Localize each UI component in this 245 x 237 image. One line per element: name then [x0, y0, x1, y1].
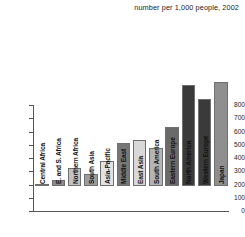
bar-category-label: Central Africa	[40, 143, 47, 184]
bar-group: Central AfricaE. and S. AfricaNorthern A…	[34, 0, 229, 212]
bar-category-label: Asia-Pacific	[105, 148, 112, 184]
bar-category-label: South Asia	[88, 151, 95, 184]
bar-category-label: Northern Africa	[72, 138, 79, 184]
bar-item[interactable]: Middle East	[117, 143, 131, 186]
bar-category-label: Western Europe	[202, 136, 209, 184]
bar-item[interactable]: South Asia	[84, 174, 98, 186]
bar-item[interactable]: Japan	[214, 82, 228, 186]
bar-item[interactable]: Northern Africa	[68, 168, 82, 186]
bar-category-label: East Asia	[137, 156, 144, 184]
bar-category-label: Eastern Europe	[170, 137, 177, 184]
bar-category-label: North America	[186, 141, 193, 184]
bar-item[interactable]: South America	[149, 148, 163, 186]
bar-item[interactable]: East Asia	[133, 140, 147, 186]
bar-item[interactable]: Eastern Europe	[165, 127, 179, 186]
bar-category-label: E. and S. Africa	[56, 138, 63, 184]
bar-item[interactable]: Western Europe	[198, 99, 212, 186]
bar-category-label: Middle East	[121, 149, 128, 184]
bar-item[interactable]: Asia-Pacific	[100, 161, 114, 186]
bar-item[interactable]: E. and S. Africa	[52, 180, 66, 186]
bar-category-label: South America	[153, 140, 160, 184]
bar-category-label: Japan	[218, 166, 225, 184]
bar-chart: number per 1,000 people, 2002 0100200300…	[0, 0, 245, 237]
bar-item[interactable]: Central Africa	[35, 184, 49, 186]
bar-item[interactable]: North America	[182, 85, 196, 186]
